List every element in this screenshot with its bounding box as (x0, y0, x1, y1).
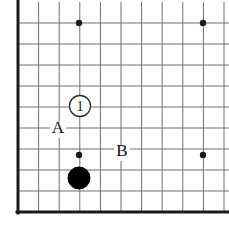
point-label-b: B (116, 141, 127, 160)
star-top-left (76, 20, 82, 26)
star-bottom-left (76, 152, 82, 158)
go-board-svg: 1 AB (0, 0, 229, 235)
board-background (0, 0, 229, 235)
go-board-diagram: 1 AB (0, 0, 229, 235)
white-stone-move-1-label: 1 (77, 99, 84, 114)
point-label-a: A (52, 118, 65, 137)
star-bottom-right (200, 152, 206, 158)
star-top-right (200, 20, 206, 26)
black-stone (68, 167, 90, 189)
